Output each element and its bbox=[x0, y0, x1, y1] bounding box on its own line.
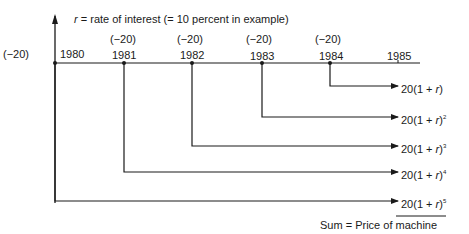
flow-1984 bbox=[330, 63, 398, 86]
rate-variable: r bbox=[74, 13, 78, 25]
timeline-diagram bbox=[0, 0, 469, 234]
flow-1982 bbox=[192, 63, 398, 146]
payment-1981: (−20) bbox=[110, 33, 136, 45]
payment-1980: (−20) bbox=[3, 48, 29, 60]
future-value-3: 20(1 + r)3 bbox=[401, 140, 446, 155]
future-value-5: 20(1 + r)5 bbox=[401, 195, 446, 210]
axis-arrow-head-icon bbox=[52, 14, 58, 24]
future-value-4: 20(1 + r)4 bbox=[401, 166, 446, 181]
year-1983: 1983 bbox=[250, 50, 274, 62]
payment-1982: (−20) bbox=[177, 33, 203, 45]
future-value-1: 20(1 + r) bbox=[401, 80, 443, 95]
payment-1984: (−20) bbox=[315, 33, 341, 45]
sum-label: Sum = Price of machine bbox=[320, 219, 437, 231]
year-1980: 1980 bbox=[60, 48, 84, 60]
rate-text: = rate of interest (= 10 percent in exam… bbox=[81, 13, 289, 25]
rate-definition: r = rate of interest (= 10 percent in ex… bbox=[74, 13, 289, 25]
future-value-2: 20(1 + r)2 bbox=[401, 111, 446, 126]
payment-1983: (−20) bbox=[246, 33, 272, 45]
year-1985: 1985 bbox=[387, 50, 411, 62]
year-1982: 1982 bbox=[180, 49, 204, 61]
year-1981: 1981 bbox=[112, 49, 136, 61]
flow-1980 bbox=[55, 63, 398, 201]
year-1984: 1984 bbox=[319, 50, 343, 62]
